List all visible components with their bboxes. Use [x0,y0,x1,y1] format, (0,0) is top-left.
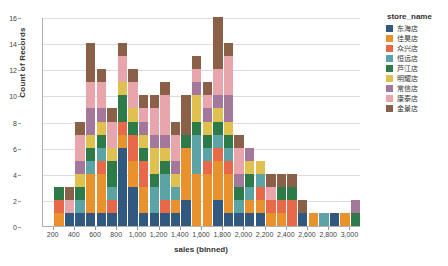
bar-segment[interactable] [192,56,201,69]
bar-segment[interactable] [75,200,84,213]
bar-segment[interactable] [139,213,148,226]
bar-segment[interactable] [65,213,74,226]
bar-segment[interactable] [340,213,349,226]
bar-segment[interactable] [234,187,243,200]
bar-segment[interactable] [75,213,84,226]
bar-stack[interactable] [245,148,254,226]
bar-segment[interactable] [160,213,169,226]
bar-stack[interactable] [128,69,137,226]
bar-stack[interactable] [75,122,84,227]
bar-segment[interactable] [139,108,148,121]
legend-item[interactable]: 东海店 [386,24,448,33]
bar-segment[interactable] [256,161,265,174]
bar-segment[interactable] [160,161,169,174]
bar-segment[interactable] [213,161,222,200]
bar-segment[interactable] [181,200,190,226]
bar-segment[interactable] [171,213,180,226]
bar-segment[interactable] [224,56,233,95]
bar-segment[interactable] [319,213,328,226]
bar-segment[interactable] [97,161,106,174]
bar-segment[interactable] [86,148,95,161]
bar-segment[interactable] [150,108,159,134]
bar-segment[interactable] [97,135,106,148]
bar-segment[interactable] [139,95,148,108]
bar-segment[interactable] [213,17,222,69]
bar-stack[interactable] [340,213,349,226]
bar-segment[interactable] [171,200,180,213]
bar-segment[interactable] [224,161,233,174]
bar-segment[interactable] [107,161,116,187]
bar-segment[interactable] [287,200,296,226]
bar-segment[interactable] [213,200,222,226]
bar-segment[interactable] [107,200,116,213]
bar-segment[interactable] [245,161,254,174]
bar-segment[interactable] [213,69,222,95]
bar-segment[interactable] [54,213,63,226]
bar-stack[interactable] [266,174,275,226]
bar-segment[interactable] [128,108,137,121]
bar-segment[interactable] [75,161,84,174]
bar-segment[interactable] [287,174,296,187]
bar-stack[interactable] [213,17,222,226]
bar-segment[interactable] [181,148,190,200]
legend-item[interactable]: 众兴店 [386,44,448,53]
bar-segment[interactable] [224,122,233,135]
bar-stack[interactable] [277,174,286,226]
bar-segment[interactable] [86,135,95,148]
bar-segment[interactable] [245,174,254,187]
bar-segment[interactable] [97,69,106,82]
bar-segment[interactable] [213,135,222,148]
bar-segment[interactable] [203,108,212,121]
bar-stack[interactable] [330,213,339,226]
bar-stack[interactable] [65,187,74,226]
bar-segment[interactable] [107,213,116,226]
bar-segment[interactable] [234,213,243,226]
bar-segment[interactable] [266,174,275,187]
bar-segment[interactable] [330,213,339,226]
bar-stack[interactable] [150,95,159,226]
bar-segment[interactable] [277,200,286,213]
bar-segment[interactable] [224,43,233,56]
bar-segment[interactable] [192,82,201,95]
bar-stack[interactable] [139,95,148,226]
bar-segment[interactable] [171,161,180,174]
bar-segment[interactable] [86,161,95,174]
bar-segment[interactable] [298,213,307,226]
bar-segment[interactable] [128,122,137,135]
bar-segment[interactable] [171,187,180,200]
bar-segment[interactable] [277,187,286,200]
bar-segment[interactable] [107,187,116,200]
bar-segment[interactable] [139,161,148,187]
bar-stack[interactable] [107,108,116,226]
bar-segment[interactable] [97,148,106,161]
bar-segment[interactable] [139,187,148,213]
bar-stack[interactable] [287,174,296,226]
bar-segment[interactable] [160,135,169,148]
bar-segment[interactable] [224,174,233,213]
bar-segment[interactable] [150,95,159,108]
bar-segment[interactable] [245,213,254,226]
legend-item[interactable]: 常信店 [386,84,448,93]
bar-segment[interactable] [266,187,275,200]
bar-segment[interactable] [234,135,243,148]
bar-stack[interactable] [171,122,180,227]
bar-stack[interactable] [54,187,63,226]
bar-segment[interactable] [139,135,148,148]
bar-segment[interactable] [65,200,74,213]
bar-segment[interactable] [298,200,307,213]
bar-segment[interactable] [97,122,106,135]
bar-segment[interactable] [75,135,84,161]
bar-segment[interactable] [160,95,169,134]
bar-segment[interactable] [256,200,265,213]
bar-segment[interactable] [160,82,169,95]
legend-item[interactable]: 金景店 [386,104,448,113]
bar-segment[interactable] [224,148,233,161]
bar-segment[interactable] [118,82,127,95]
bar-segment[interactable] [97,213,106,226]
bar-segment[interactable] [107,122,116,148]
bar-segment[interactable] [192,135,201,174]
bar-segment[interactable] [139,122,148,135]
bar-stack[interactable] [319,213,328,226]
bar-segment[interactable] [150,135,159,148]
bar-segment[interactable] [203,161,212,174]
